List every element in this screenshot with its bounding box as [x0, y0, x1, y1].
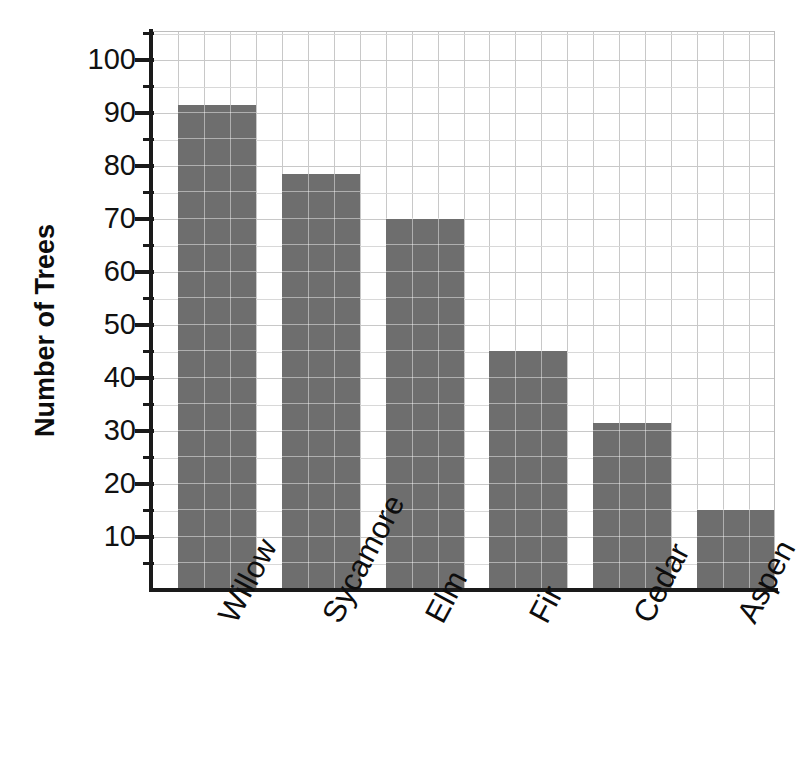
x-tick-label: Fir [522, 580, 571, 629]
x-tick-label: Elm [418, 565, 475, 629]
x-tick-label: Cedar [626, 537, 697, 628]
bar-chart: Number of Trees 102030405060708090100 Wi… [0, 0, 801, 774]
x-axis-tick-labels: WillowSycamoreElmFirCedarAspen [0, 0, 801, 774]
x-tick-label: Sycamore [315, 489, 412, 629]
x-tick-label: Willow [211, 533, 285, 629]
x-tick-label: Aspen [730, 534, 801, 629]
